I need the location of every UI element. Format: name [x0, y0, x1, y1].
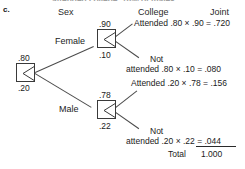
cropped-running-head: attended college, 78% of males [52, 0, 242, 1]
total-value: 1.000 [201, 150, 222, 159]
outcome-female-attended: Attended .80 × .90 = .720 [134, 18, 230, 28]
probability-male-not-attended: .22 [99, 122, 111, 131]
fork-glyph-icon [97, 100, 118, 121]
total-divider [196, 146, 236, 147]
probability-male-attended: .78 [99, 91, 111, 100]
outcome-label-line2: attended [126, 64, 159, 74]
branch-line-root-to-male [34, 73, 91, 108]
part-label: c. [3, 6, 10, 14]
fork-glyph-icon [97, 29, 118, 50]
probability-female-attended: .90 [99, 20, 111, 29]
fork-glyph-icon [16, 63, 37, 84]
outcome-male-not-attended: attended .20 × .22 = .044 [126, 136, 221, 146]
outcome-expression: .80 × .10 = .080 [161, 64, 221, 74]
branch-line-root-to-female [35, 46, 94, 73]
probability-female: .80 [18, 54, 30, 63]
probability-male: .20 [18, 84, 30, 93]
node-root [16, 63, 35, 82]
branch-label-female: Female [55, 37, 85, 46]
outcome-label: Attended [134, 18, 168, 28]
outcome-female-not-attended-label: Not [150, 54, 163, 64]
column-header-sex: Sex [58, 8, 74, 17]
column-header-college: College [138, 8, 169, 17]
column-header-joint: Joint [210, 8, 229, 17]
node-female [97, 29, 116, 48]
probability-tree-diagram: attended college, 78% of males c. Sex Co… [0, 0, 245, 169]
branch-label-male: Male [59, 105, 79, 114]
outcome-label-line2: attended [126, 136, 159, 146]
total-label: Total [168, 150, 186, 159]
outcome-male-not-attended-label: Not [150, 126, 163, 136]
outcome-label: Attended [131, 78, 165, 88]
probability-female-not-attended: .10 [99, 51, 111, 60]
outcome-expression: .20 × .78 = .156 [167, 78, 227, 88]
outcome-male-attended: Attended .20 × .78 = .156 [131, 78, 227, 88]
outcome-expression: .20 × .22 = .044 [161, 136, 221, 146]
node-male [97, 100, 116, 119]
outcome-expression: .80 × .90 = .720 [170, 18, 230, 28]
outcome-female-not-attended: attended .80 × .10 = .080 [126, 64, 221, 74]
